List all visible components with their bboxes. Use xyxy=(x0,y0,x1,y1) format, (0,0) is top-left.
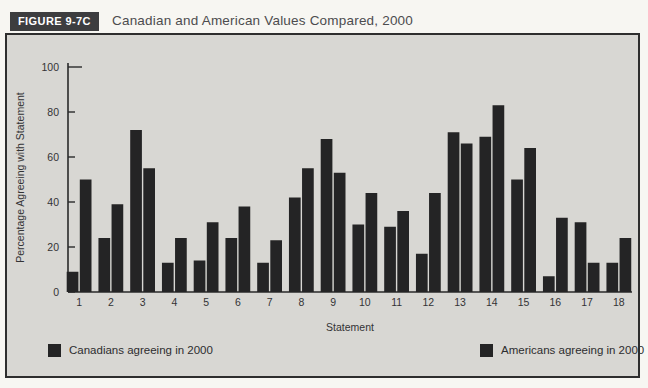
bar-statement-9-canadians xyxy=(321,139,333,292)
bar-statement-8-americans xyxy=(302,168,314,292)
x-tick-label-13: 13 xyxy=(454,296,466,308)
bar-statement-12-canadians xyxy=(416,254,428,292)
x-tick-label-7: 7 xyxy=(267,296,273,308)
x-tick-label-9: 9 xyxy=(330,296,336,308)
bar-statement-14-americans xyxy=(493,105,505,292)
bar-statement-10-canadians xyxy=(352,225,364,293)
bar-statement-4-canadians xyxy=(162,263,174,292)
legend-swatch-americans xyxy=(480,344,493,357)
bar-statement-17-americans xyxy=(588,263,600,292)
y-tick-label-100: 100 xyxy=(41,61,59,73)
bar-statement-5-canadians xyxy=(194,261,206,293)
bar-statement-13-americans xyxy=(461,144,473,293)
bar-statement-6-canadians xyxy=(225,238,237,292)
y-tick-label-40: 40 xyxy=(47,196,59,208)
figure-title: Canadian and American Values Compared, 2… xyxy=(112,13,413,29)
bar-statement-7-americans xyxy=(270,240,282,292)
bar-statement-14-canadians xyxy=(479,137,491,292)
bar-statement-8-canadians xyxy=(289,198,301,293)
bar-chart: 020406080100Percentage Agreeing with Sta… xyxy=(7,35,638,376)
bar-statement-3-canadians xyxy=(130,130,142,292)
x-tick-label-15: 15 xyxy=(518,296,530,308)
chart-panel: 020406080100Percentage Agreeing with Sta… xyxy=(5,33,640,378)
x-tick-label-2: 2 xyxy=(108,296,114,308)
x-tick-label-17: 17 xyxy=(581,296,593,308)
x-tick-label-6: 6 xyxy=(235,296,241,308)
y-tick-label-80: 80 xyxy=(47,106,59,118)
y-tick-label-20: 20 xyxy=(47,241,59,253)
bar-statement-13-canadians xyxy=(448,132,460,292)
y-axis-title: Percentage Agreeing with Statement xyxy=(14,92,26,263)
y-tick-label-60: 60 xyxy=(47,151,59,163)
bar-statement-11-americans xyxy=(397,211,409,292)
legend-label-canadians: Canadians agreeing in 2000 xyxy=(69,344,213,356)
x-tick-label-8: 8 xyxy=(298,296,304,308)
x-tick-label-11: 11 xyxy=(391,296,402,308)
bar-statement-2-americans xyxy=(112,204,124,292)
x-tick-label-1: 1 xyxy=(76,296,82,308)
x-tick-label-10: 10 xyxy=(359,296,371,308)
figure-header: FIGURE 9-7C Canadian and American Values… xyxy=(0,0,648,33)
x-tick-label-16: 16 xyxy=(550,296,562,308)
bar-statement-15-canadians xyxy=(511,180,523,293)
bar-statement-17-canadians xyxy=(575,222,587,292)
bar-statement-3-americans xyxy=(143,168,155,292)
bar-statement-6-americans xyxy=(239,207,251,293)
legend-item-canadians: Canadians agreeing in 2000 xyxy=(48,342,213,358)
bar-statement-15-americans xyxy=(524,148,536,292)
bar-statement-18-americans xyxy=(620,238,632,292)
figure-number-badge: FIGURE 9-7C xyxy=(10,12,99,31)
x-tick-label-4: 4 xyxy=(171,296,177,308)
x-tick-label-18: 18 xyxy=(613,296,625,308)
bar-statement-12-americans xyxy=(429,193,441,292)
x-tick-label-14: 14 xyxy=(486,296,498,308)
legend-item-americans: Americans agreeing in 2000 xyxy=(480,342,644,358)
bar-statement-1-americans xyxy=(80,180,92,293)
x-axis-title: Statement xyxy=(326,321,374,333)
legend-swatch-canadians xyxy=(48,344,61,357)
x-tick-label-5: 5 xyxy=(203,296,209,308)
legend-label-americans: Americans agreeing in 2000 xyxy=(501,344,644,356)
bar-statement-10-americans xyxy=(366,193,378,292)
bar-statement-1-canadians xyxy=(67,272,79,292)
bar-statement-9-americans xyxy=(334,173,346,292)
x-tick-label-3: 3 xyxy=(140,296,146,308)
figure-page: FIGURE 9-7C Canadian and American Values… xyxy=(0,0,648,388)
bar-statement-4-americans xyxy=(175,238,187,292)
bar-statement-16-canadians xyxy=(543,276,555,292)
x-tick-label-12: 12 xyxy=(423,296,435,308)
bar-statement-7-canadians xyxy=(257,263,269,292)
bar-statement-11-canadians xyxy=(384,227,396,292)
y-tick-label-0: 0 xyxy=(53,286,59,298)
bar-statement-16-americans xyxy=(556,218,568,292)
bar-statement-5-americans xyxy=(207,222,219,292)
bar-statement-18-canadians xyxy=(606,263,618,292)
bar-statement-2-canadians xyxy=(98,238,110,292)
